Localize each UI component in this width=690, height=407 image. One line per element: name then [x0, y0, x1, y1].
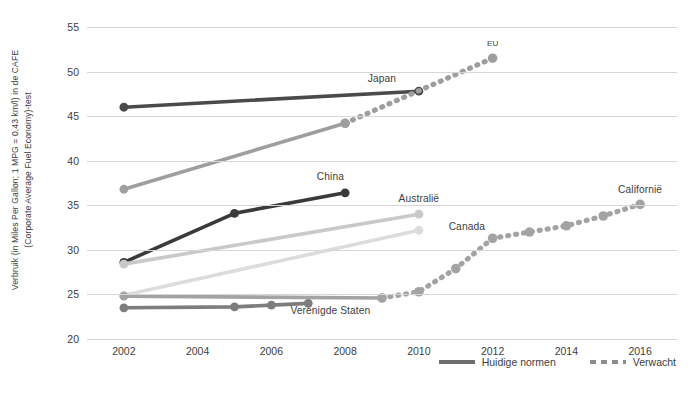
legend-label: Huidige normen [482, 356, 556, 368]
y-axis-tick-label: 35 [49, 199, 79, 211]
legend: Huidige normenVerwacht [0, 356, 690, 386]
y-axis-tick-label: 20 [49, 333, 79, 345]
y-axis-tick-label: 25 [49, 288, 79, 300]
gridline [87, 339, 677, 340]
y-axis-title: Verbruik (in Miles Per Gallon; 1 MPG = 0… [0, 0, 44, 340]
legend-item[interactable]: Verwacht [590, 356, 676, 368]
y-axis-title-line2: (Corporate Average Fuel Economy)-test [22, 92, 35, 247]
y-axis-tick-label: 55 [49, 21, 79, 33]
y-axis-tick-label: 30 [49, 244, 79, 256]
legend-label: Verwacht [633, 356, 676, 368]
y-axis-tick-label: 40 [49, 155, 79, 167]
plot-area: 2025303540455055 20022004200620082010201… [87, 27, 677, 339]
legend-swatch-dashed-icon [590, 360, 626, 364]
legend-item[interactable]: Huidige normen [439, 356, 556, 368]
y-axis-tick-label: 45 [49, 110, 79, 122]
x-axis-ticks: 20022004200620082010201220142016 [87, 27, 677, 339]
y-axis-tick-label: 50 [49, 66, 79, 78]
chart-container: Verbruik (in Miles Per Gallon; 1 MPG = 0… [0, 0, 690, 407]
y-axis-title-line1: Verbruik (in Miles Per Gallon; 1 MPG = 0… [9, 50, 22, 290]
legend-swatch-solid-icon [439, 360, 475, 364]
